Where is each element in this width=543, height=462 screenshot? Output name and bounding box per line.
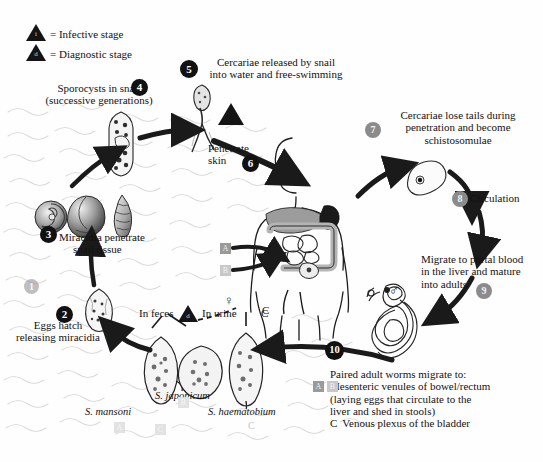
legend-label-infective: = Infective stage bbox=[50, 28, 123, 41]
marker-b-anatomy-text: B bbox=[223, 266, 228, 275]
marker-a-anatomy-text: A bbox=[223, 244, 229, 253]
label-migrate-line1: Migrate to portal blood bbox=[421, 253, 541, 265]
label-cercariae-released: Cercariae released by snail into water a… bbox=[186, 56, 366, 81]
arrow-sporocyst-to-cercaria bbox=[140, 130, 186, 138]
male-symbol-text: ♂ bbox=[389, 283, 399, 298]
step-badge-4-number: 4 bbox=[137, 82, 143, 93]
step-badge-5-number: 5 bbox=[186, 64, 192, 75]
label-circulation-text: Circulation bbox=[470, 192, 520, 204]
marker-b-under-japonicum-text: B bbox=[181, 398, 186, 407]
female-symbol-text: ♀ bbox=[224, 293, 234, 308]
outcome-c-text: Venous plexus of the bladder bbox=[342, 417, 470, 429]
step-badge-9-number: 9 bbox=[482, 286, 487, 296]
label-sporocysts: Sporocysts in snail (successive generati… bbox=[24, 82, 174, 107]
label-sporocysts-line2: (successive generations) bbox=[24, 94, 174, 106]
infective-stage-triangle-icon: i bbox=[26, 24, 46, 41]
label-in-urine-text: In urine bbox=[202, 307, 237, 319]
step-badge-10-number: 10 bbox=[329, 345, 340, 356]
marker-c-under-haematobium: C bbox=[248, 420, 255, 431]
diagnostic-triangle-letter-eggs: d bbox=[178, 312, 198, 320]
arrow-marker-a-to-bowel bbox=[233, 247, 277, 254]
marker-c-eggs: C bbox=[261, 307, 268, 319]
label-in-feces: In feces bbox=[139, 307, 174, 319]
label-lose-tails-line2: penetration and become bbox=[382, 121, 534, 133]
label-in-urine: In urine bbox=[202, 307, 237, 319]
marker-b-outcome: B bbox=[327, 381, 338, 392]
arrow-eggs-to-hatch bbox=[112, 330, 150, 350]
label-lose-tails-line1: Cercariae lose tails during bbox=[382, 109, 534, 121]
label-species-mansoni: S. mansoni bbox=[85, 406, 131, 418]
step-badge-9: 9 bbox=[476, 283, 492, 299]
step-badge-6-number: 6 bbox=[248, 158, 254, 169]
marker-c-box-bottom-text: C bbox=[158, 425, 163, 434]
arrow-to-schistosomule bbox=[358, 168, 400, 196]
label-eggs-hatch: Eggs hatch releasing miracidia bbox=[4, 319, 112, 344]
arrow-to-portal-blood bbox=[479, 212, 483, 250]
label-species-mansoni-text: S. mansoni bbox=[85, 406, 131, 417]
step-badge-8: 8 bbox=[452, 191, 468, 207]
diagnostic-stage-triangle-icon: d bbox=[26, 44, 46, 61]
legend-row-infective: i = Infective stage bbox=[26, 24, 132, 41]
diagram-canvas: i = Infective stage d = Diagnostic stage… bbox=[0, 0, 543, 462]
female-symbol-worms: ♀ bbox=[224, 294, 234, 309]
marker-a-under-mansoni-text: A bbox=[117, 423, 123, 432]
marker-c-under-haematobium-text: C bbox=[248, 420, 255, 431]
legend-row-diagnostic: d = Diagnostic stage bbox=[26, 44, 132, 61]
label-migrate-line2: in the liver and mature bbox=[421, 265, 541, 277]
step-badge-4: 4 bbox=[131, 79, 148, 96]
infective-triangle-letter: i bbox=[26, 31, 46, 39]
marker-b-anatomy: B bbox=[220, 265, 231, 276]
outcome-c-letter: C bbox=[330, 417, 337, 429]
label-species-haematobium-text: S. haematobium bbox=[208, 406, 276, 417]
line-c-bladder-route-2 bbox=[300, 292, 304, 314]
marker-a-under-mansoni: A bbox=[114, 422, 125, 433]
outcome-block: Paired adult worms migrate to: Mesenteri… bbox=[330, 368, 535, 430]
step-badge-6: 6 bbox=[242, 155, 259, 172]
diagnostic-triangle-letter: d bbox=[26, 51, 46, 59]
label-miracidia-penetrate: Miracidia penetrate snail tissue bbox=[59, 231, 169, 256]
label-lose-tails: Cercariae lose tails during penetration … bbox=[382, 109, 534, 146]
step-badge-5: 5 bbox=[180, 60, 198, 78]
male-symbol-worms: ♂ bbox=[389, 284, 399, 299]
label-circulation: Circulation bbox=[470, 192, 520, 204]
label-species-haematobium: S. haematobium bbox=[208, 406, 276, 418]
step-badge-1: 1 bbox=[24, 279, 39, 294]
outcome-ab-line2: (laying eggs that circulate to the bbox=[330, 393, 535, 405]
label-miracidia-line1: Miracidia penetrate bbox=[59, 231, 169, 243]
step-badge-3-number: 3 bbox=[46, 229, 52, 240]
infective-stage-triangle-icon-cercaria: i bbox=[218, 103, 244, 125]
legend-label-diagnostic: = Diagnostic stage bbox=[50, 48, 132, 61]
label-cercariae-released-line1: Cercariae released by snail bbox=[186, 56, 366, 68]
marker-b-outcome-text: B bbox=[330, 382, 335, 391]
step-badge-7-number: 7 bbox=[371, 125, 376, 135]
line-c-bladder-route bbox=[284, 290, 289, 314]
marker-a-outcome: A bbox=[313, 381, 324, 392]
marker-a-outcome-text: A bbox=[316, 382, 322, 391]
diagnostic-stage-triangle-icon-eggs: d bbox=[178, 305, 198, 322]
outcome-intro: Paired adult worms migrate to: bbox=[330, 368, 535, 380]
step-badge-8-number: 8 bbox=[458, 194, 463, 204]
label-eggs-hatch-line2: releasing miracidia bbox=[4, 331, 112, 343]
step-badge-2: 2 bbox=[56, 306, 73, 323]
label-penetrate-line1: Penetrate bbox=[208, 142, 278, 154]
label-lose-tails-line3: schistosomulae bbox=[382, 134, 534, 146]
marker-b-under-japonicum: B bbox=[178, 397, 189, 408]
label-miracidia-line2: snail tissue bbox=[59, 243, 169, 255]
label-in-feces-text: In feces bbox=[139, 307, 174, 319]
outcome-ab-line1: Mesenteric venules of bowel/rectum bbox=[330, 380, 535, 392]
arrow-snail-to-sporocyst bbox=[72, 154, 112, 186]
step-badge-1-number: 1 bbox=[29, 282, 34, 292]
arrow-marker-b-to-rectum bbox=[233, 260, 273, 270]
label-cercariae-released-line2: into water and free-swimming bbox=[186, 68, 366, 80]
marker-c-box-bottom: C bbox=[155, 424, 166, 435]
step-badge-2-number: 2 bbox=[62, 309, 68, 320]
legend: i = Infective stage d = Diagnostic stage bbox=[26, 24, 132, 64]
label-sporocysts-line1: Sporocysts in snail bbox=[24, 82, 174, 94]
outcome-ab-line3: liver and shed in stools) bbox=[330, 405, 535, 417]
step-badge-7: 7 bbox=[365, 122, 381, 138]
step-badge-3: 3 bbox=[40, 226, 57, 243]
step-badge-10: 10 bbox=[325, 341, 344, 360]
marker-c-eggs-text: C bbox=[261, 307, 268, 319]
marker-a-anatomy: A bbox=[220, 243, 231, 254]
